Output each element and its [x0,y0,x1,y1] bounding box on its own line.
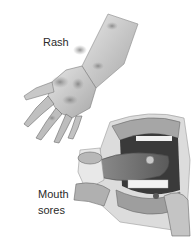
mouth-sores-label: Mouth sores [38,188,78,217]
mouth-illustration [74,114,190,236]
rash-label: Rash [43,36,69,49]
mouth-sores-label-line2: sores [38,204,78,217]
medical-illustration [0,0,196,240]
mouth-sores-label-line1: Mouth [38,188,78,201]
